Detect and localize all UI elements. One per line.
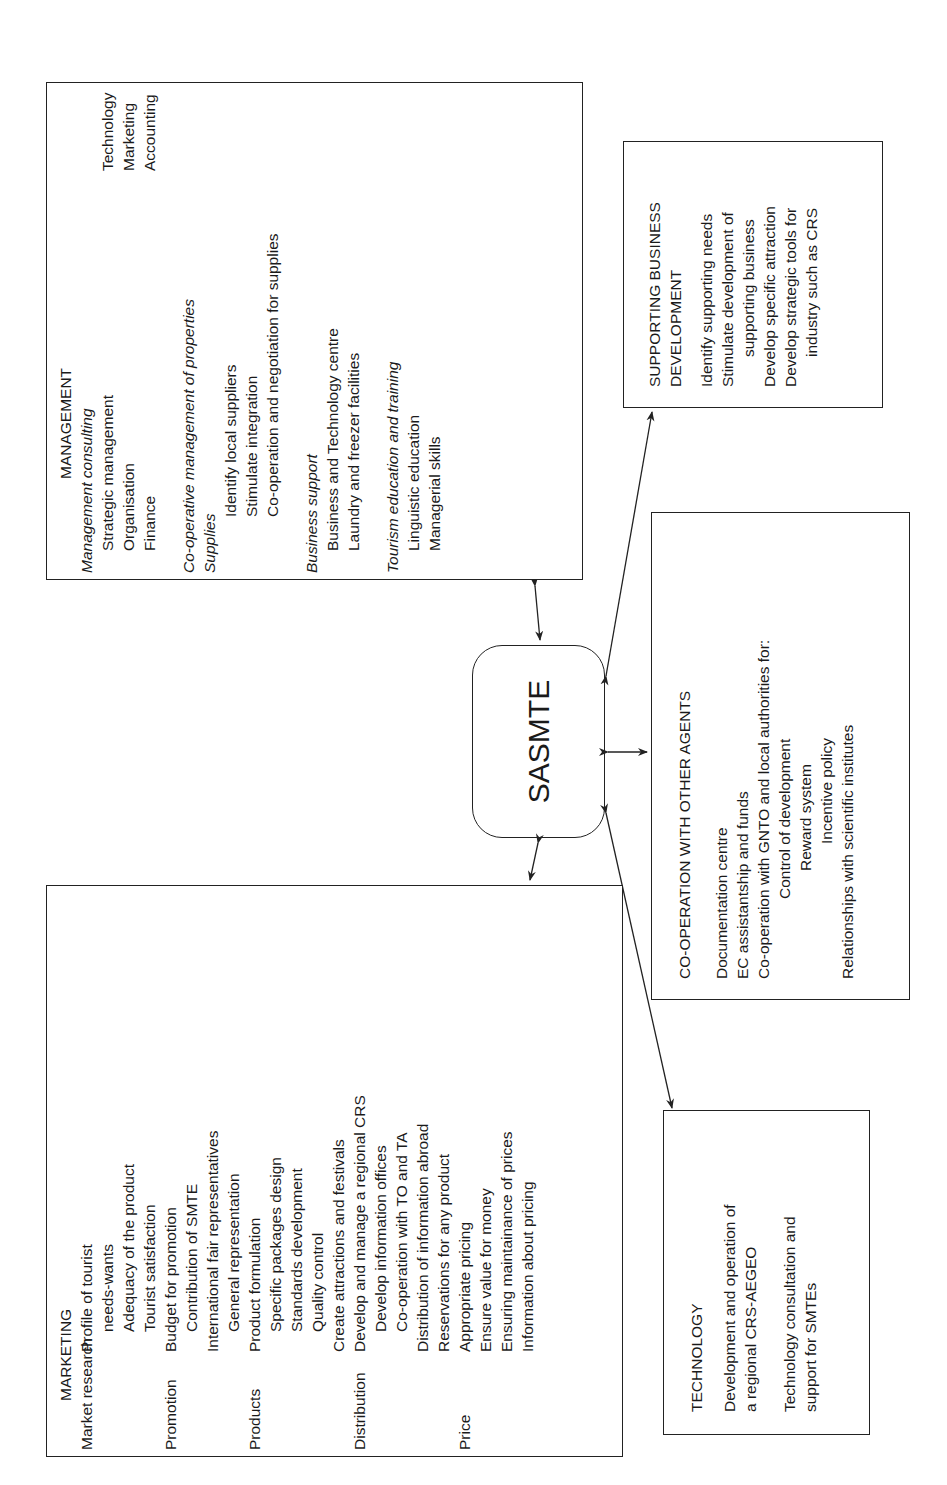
marketing-row: Develop information offices xyxy=(370,884,391,1450)
marketing-row: Information about pricing xyxy=(517,884,538,1450)
technology-item: Development and operation of xyxy=(719,1204,740,1412)
marketing-row: Specific packages design xyxy=(265,884,286,1450)
marketing-row: Ensuring maintainance of prices xyxy=(496,884,517,1450)
marketing-item: International fair representatives xyxy=(202,1131,223,1352)
marketing-item: Standards development xyxy=(286,1168,307,1352)
marketing-item: Product formulation xyxy=(244,1218,265,1352)
supplies-item: Stimulate integration xyxy=(241,81,262,517)
supporting-item: Develop specific attraction xyxy=(759,202,780,387)
marketing-row: Co-operation with TO and TA xyxy=(391,884,412,1450)
marketing-row: Ensure value for money xyxy=(475,884,496,1450)
supplies-heading: Supplies xyxy=(199,81,220,579)
arrow-marketing xyxy=(530,843,538,880)
supporting-item: Stimulate development of xyxy=(717,202,738,387)
supporting-item: supporting business xyxy=(738,202,759,387)
cooperation-box: CO-OPERATION WITH OTHER AGENTS Documenta… xyxy=(651,512,910,1000)
supporting-title: DEVELOPMENT xyxy=(665,202,686,387)
marketing-category: Promotion xyxy=(160,1352,181,1450)
marketing-row: Quality control xyxy=(307,884,328,1450)
supplies-item: Identify local suppliers xyxy=(220,81,241,517)
marketing-category: Market research xyxy=(76,1352,97,1450)
marketing-item: General representation xyxy=(223,1173,244,1352)
cooperation-sub-item: Reward system xyxy=(795,640,816,871)
consulting-item: Strategic management xyxy=(97,251,118,551)
marketing-item: Tourist satisfaction xyxy=(139,1205,160,1353)
cooperation-title: CO-OPERATION WITH OTHER AGENTS xyxy=(674,640,695,979)
management-consulting-heading: Management consulting xyxy=(76,81,97,579)
marketing-item: needs-wants xyxy=(97,1244,118,1352)
technology-box: TECHNOLOGY Development and operation of … xyxy=(663,1110,870,1435)
consulting-item: Technology xyxy=(97,93,118,171)
cooperative-heading: Co-operative management of properties xyxy=(178,81,199,579)
marketing-item: Profile of tourist xyxy=(76,1244,97,1352)
marketing-category: Price xyxy=(454,1352,475,1450)
marketing-item: Information about pricing xyxy=(517,1181,538,1352)
sasmte-label: SASMTE xyxy=(522,680,556,803)
cooperation-item: Co-operation with GNTO and local authori… xyxy=(753,640,774,979)
marketing-row: Distribution of information abroad xyxy=(412,884,433,1450)
business-support-heading: Business support xyxy=(301,81,322,579)
marketing-item: Distribution of information abroad xyxy=(412,1124,433,1352)
arrow-management xyxy=(535,586,540,640)
marketing-item: Adequacy of the product xyxy=(118,1164,139,1352)
management-title: MANAGEMENT xyxy=(55,81,76,579)
marketing-item: Ensuring maintainance of prices xyxy=(496,1131,517,1352)
supporting-item: Identify supporting needs xyxy=(696,202,717,387)
sasmte-center-node: SASMTE xyxy=(472,645,605,838)
management-box: MANAGEMENT Management consulting Strateg… xyxy=(46,82,583,580)
supporting-business-box: SUPPORTING BUSINESS DEVELOPMENT Identify… xyxy=(623,141,883,408)
technology-item: a regional CRS-AEGEO xyxy=(740,1204,761,1412)
consulting-item: Accounting xyxy=(139,93,160,171)
marketing-item: Contribution of SMTE xyxy=(181,1184,202,1352)
consulting-item: Marketing xyxy=(118,93,139,171)
marketing-box: MARKETING Market researchProfile of tour… xyxy=(46,885,623,1457)
marketing-row: Standards development xyxy=(286,884,307,1450)
education-item: Managerial skills xyxy=(424,81,445,551)
education-heading: Tourism education and training xyxy=(382,81,403,579)
marketing-row: General representation xyxy=(223,884,244,1450)
technology-title: TECHNOLOGY xyxy=(686,1204,707,1412)
supplies-item: Co-operation and negotiation for supplie… xyxy=(262,81,283,517)
supporting-item: industry such as CRS xyxy=(801,202,822,387)
supporting-title: SUPPORTING BUSINESS xyxy=(644,202,665,387)
cooperation-item: EC assistantship and funds xyxy=(732,640,753,979)
technology-item: support for SMTEs xyxy=(800,1204,821,1412)
marketing-row: PriceAppropriate pricing xyxy=(454,884,475,1450)
marketing-row: Reservations for any product xyxy=(433,884,454,1450)
marketing-row: Market researchProfile of tourist xyxy=(76,884,97,1450)
marketing-item: Develop and manage a regional CRS xyxy=(349,1095,370,1352)
marketing-row: DistributionDevelop and manage a regiona… xyxy=(349,884,370,1450)
business-support-item: Laundry and freezer facilities xyxy=(343,81,364,551)
business-support-item: Business and Technology centre xyxy=(322,81,343,551)
marketing-item: Quality control xyxy=(307,1233,328,1352)
marketing-row: Adequacy of the product xyxy=(118,884,139,1450)
marketing-item: Create attractions and festivals xyxy=(328,1139,349,1352)
marketing-category: Products xyxy=(244,1352,265,1450)
marketing-item: Co-operation with TO and TA xyxy=(391,1132,412,1352)
consulting-item: Organisation xyxy=(118,251,139,551)
cooperation-sub-item: Incentive policy xyxy=(816,640,837,844)
consulting-item: Finance xyxy=(139,251,160,551)
marketing-item: Reservations for any product xyxy=(433,1154,454,1352)
marketing-title: MARKETING xyxy=(55,884,76,1456)
marketing-row: Contribution of SMTE xyxy=(181,884,202,1450)
education-item: Linguistic education xyxy=(403,81,424,551)
marketing-row: Create attractions and festivals xyxy=(328,884,349,1450)
marketing-row: International fair representatives xyxy=(202,884,223,1450)
marketing-category: Distribution xyxy=(349,1352,370,1450)
marketing-item: Develop information offices xyxy=(370,1145,391,1352)
marketing-row: PromotionBudget for promotion xyxy=(160,884,181,1450)
cooperation-sub-item: Control of development xyxy=(774,640,795,899)
arrow-supporting xyxy=(606,412,652,676)
cooperation-item: Documentation centre xyxy=(711,640,732,979)
marketing-item: Appropriate pricing xyxy=(454,1222,475,1352)
marketing-row: needs-wants xyxy=(97,884,118,1450)
marketing-row: ProductsProduct formulation xyxy=(244,884,265,1450)
cooperation-item: Relationships with scientific institutes xyxy=(837,640,858,979)
marketing-item: Budget for promotion xyxy=(160,1207,181,1352)
supporting-item: Develop strategic tools for xyxy=(780,202,801,387)
marketing-item: Ensure value for money xyxy=(475,1188,496,1352)
technology-item: Technology consultation and xyxy=(779,1204,800,1412)
marketing-row: Tourist satisfaction xyxy=(139,884,160,1450)
marketing-item: Specific packages design xyxy=(265,1157,286,1352)
